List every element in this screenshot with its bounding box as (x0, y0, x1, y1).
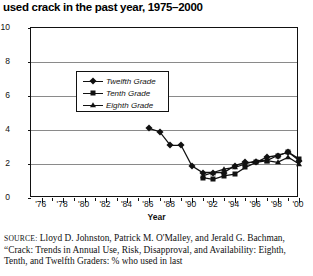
y-tick-label: 8 (0, 57, 10, 66)
data-point-triangle (296, 161, 302, 166)
data-point-triangle (253, 158, 259, 163)
data-point-triangle (264, 158, 270, 163)
legend-item-tenth-grade: Tenth Grade (83, 87, 168, 99)
data-point-square (221, 173, 226, 178)
x-axis-title: Year (0, 212, 313, 222)
source-note: SOURCE: Lloyd D. Johnston, Patrick M. O'… (4, 233, 310, 268)
y-tick-label: 4 (0, 125, 10, 134)
legend-label-eighth-grade: Eighth Grade (106, 101, 153, 110)
legend-label-twelfth-grade: Twelfth Grade (106, 77, 156, 86)
y-tick-label: 0 (0, 193, 10, 202)
source-label: SOURCE: (4, 234, 37, 243)
chart-figure: used crack in the past year, 1975–2000 T… (0, 0, 313, 276)
series-lines (31, 28, 299, 198)
data-point-triangle (275, 160, 281, 165)
legend-item-twelfth-grade: Twelfth Grade (83, 75, 168, 87)
data-point-square (275, 153, 280, 158)
data-point-square (232, 172, 237, 177)
source-text: Lloyd D. Johnston, Patrick M. O'Malley, … (4, 233, 286, 266)
chart-legend: Twelfth Grade Tenth Grade Eighth Grade (76, 71, 169, 112)
legend-item-eighth-grade: Eighth Grade (83, 99, 168, 111)
data-point-triangle (242, 161, 248, 166)
data-point-triangle (221, 166, 227, 171)
data-point-triangle (285, 154, 291, 159)
legend-marker-triangle-icon (83, 100, 103, 110)
data-point-triangle (232, 165, 238, 170)
data-point-square (211, 177, 216, 182)
legend-label-tenth-grade: Tenth Grade (106, 89, 150, 98)
y-tick-label: 2 (0, 159, 10, 168)
y-tick-label: 10 (0, 23, 10, 32)
legend-marker-square-icon (83, 88, 103, 98)
legend-marker-diamond-icon (83, 76, 103, 86)
plot-area: Twelfth Grade Tenth Grade Eighth Grade (30, 27, 298, 197)
y-tick-mark (28, 198, 31, 199)
x-tick-label: '00 (285, 200, 311, 209)
y-tick-label: 6 (0, 91, 10, 100)
data-point-triangle (200, 173, 206, 178)
data-series-layer (31, 28, 299, 198)
data-point-triangle (210, 170, 216, 175)
chart-title: used crack in the past year, 1975–2000 (3, 1, 303, 14)
